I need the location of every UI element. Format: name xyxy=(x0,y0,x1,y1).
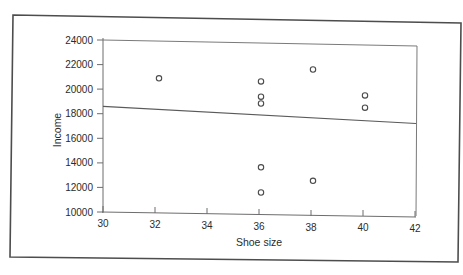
data-point xyxy=(156,76,161,81)
data-point xyxy=(258,101,263,106)
x-tick-label: 42 xyxy=(409,223,421,234)
data-point xyxy=(258,190,263,195)
data-point xyxy=(310,67,315,72)
y-tick-label: 18000 xyxy=(65,108,93,119)
y-tick-label: 22000 xyxy=(65,59,93,70)
trendline xyxy=(103,106,416,123)
y-axis-ticks xyxy=(97,40,103,212)
y-axis-tick-labels: 24000 22000 20000 18000 16000 14000 1200… xyxy=(65,35,93,218)
x-tick-label: 32 xyxy=(149,219,161,230)
data-point xyxy=(258,165,263,170)
data-point xyxy=(258,94,263,99)
scanned-page: 24000 22000 20000 18000 16000 14000 1200… xyxy=(0,0,463,275)
data-point xyxy=(362,105,367,110)
data-points-group xyxy=(156,67,367,195)
data-point xyxy=(310,178,315,183)
y-tick-label: 10000 xyxy=(65,207,93,218)
y-tick-label: 14000 xyxy=(65,157,93,168)
y-tick-label: 16000 xyxy=(65,133,93,144)
data-point xyxy=(362,93,367,98)
x-axis-tick-labels: 30 32 34 36 38 40 42 xyxy=(97,218,421,234)
plot-frame-right xyxy=(416,46,417,216)
x-tick-label: 30 xyxy=(97,218,109,229)
x-axis-ticks xyxy=(103,206,415,217)
y-tick-label: 24000 xyxy=(65,35,93,46)
y-tick-label: 20000 xyxy=(65,84,93,95)
y-axis-title: Income xyxy=(51,113,63,148)
x-tick-label: 40 xyxy=(357,222,369,233)
x-tick-label: 36 xyxy=(253,221,265,232)
x-tick-label: 38 xyxy=(305,222,317,233)
data-point xyxy=(258,79,263,84)
plot-frame-top xyxy=(103,40,417,46)
scatter-plot-figure: 24000 22000 20000 18000 16000 14000 1200… xyxy=(0,0,463,275)
x-axis-title: Shoe size xyxy=(236,236,282,248)
x-tick-label: 34 xyxy=(201,220,213,231)
y-tick-label: 12000 xyxy=(65,182,93,193)
